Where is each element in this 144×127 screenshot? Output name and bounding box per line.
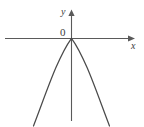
y-axis-label: y bbox=[60, 6, 66, 17]
parabola-figure: y x 0 bbox=[0, 0, 144, 127]
origin-label: 0 bbox=[60, 26, 66, 38]
x-axis-label: x bbox=[130, 40, 136, 51]
coordinate-plot-svg: y x 0 bbox=[0, 0, 144, 127]
y-axis-arrowhead bbox=[68, 10, 74, 17]
